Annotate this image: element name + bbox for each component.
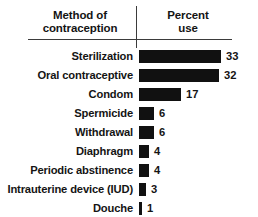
chart-rows: Sterilization33Oral contraceptive32Condo… xyxy=(0,48,258,217)
header-underline xyxy=(28,39,232,40)
chart-row: Condom17 xyxy=(0,86,258,105)
bar-area: 1 xyxy=(139,200,258,217)
row-label: Sterilization xyxy=(0,50,133,63)
chart-row: Intrauterine device (IUD)3 xyxy=(0,181,258,200)
bar-value-label: 1 xyxy=(147,202,153,215)
bar xyxy=(139,164,149,177)
column-header-method-line2: contraception xyxy=(28,22,132,35)
bar-value-label: 6 xyxy=(159,126,165,139)
bar-area: 33 xyxy=(139,48,258,67)
row-label: Diaphragm xyxy=(0,145,133,158)
bar xyxy=(139,126,154,139)
row-label: Periodic abstinence xyxy=(0,164,133,177)
column-header-method-line1: Method of xyxy=(28,9,132,22)
bar-value-label: 17 xyxy=(186,88,198,101)
bar xyxy=(139,50,221,63)
column-header-percent: Percent use xyxy=(143,9,233,34)
bar-area: 6 xyxy=(139,105,258,124)
bar xyxy=(139,88,181,101)
row-label: Intrauterine device (IUD) xyxy=(0,183,133,196)
bar-value-label: 4 xyxy=(154,164,160,177)
bar-value-label: 4 xyxy=(154,145,160,158)
bar-value-label: 3 xyxy=(151,183,157,196)
row-label: Condom xyxy=(0,88,133,101)
bar-value-label: 32 xyxy=(224,69,236,82)
bar-area: 4 xyxy=(139,162,258,181)
chart-row: Withdrawal6 xyxy=(0,124,258,143)
bar xyxy=(139,145,149,158)
bar xyxy=(139,183,146,196)
chart-header: Method of contraception Percent use xyxy=(0,0,258,39)
bar-area: 6 xyxy=(139,124,258,143)
bar xyxy=(139,69,219,82)
column-divider-line xyxy=(136,6,137,48)
column-header-percent-line2: use xyxy=(143,22,233,35)
bar-area: 17 xyxy=(139,86,258,105)
bar-area: 4 xyxy=(139,143,258,162)
row-label: Oral contraceptive xyxy=(0,69,133,82)
row-label: Withdrawal xyxy=(0,126,133,139)
chart-row: Spermicide6 xyxy=(0,105,258,124)
row-label: Spermicide xyxy=(0,107,133,120)
row-label: Douche xyxy=(0,202,133,215)
bar-value-label: 6 xyxy=(159,107,165,120)
contraception-bar-chart: Method of contraception Percent use Ster… xyxy=(0,0,258,217)
bar-area: 3 xyxy=(139,181,258,200)
column-header-method: Method of contraception xyxy=(28,9,132,34)
chart-row: Diaphragm4 xyxy=(0,143,258,162)
chart-row: Douche1 xyxy=(0,200,258,217)
chart-row: Oral contraceptive32 xyxy=(0,67,258,86)
chart-row: Periodic abstinence4 xyxy=(0,162,258,181)
bar-value-label: 33 xyxy=(226,50,238,63)
bar xyxy=(139,107,154,120)
column-header-percent-line1: Percent xyxy=(143,9,233,22)
bar-area: 32 xyxy=(139,67,258,86)
chart-row: Sterilization33 xyxy=(0,48,258,67)
bar xyxy=(139,202,142,215)
